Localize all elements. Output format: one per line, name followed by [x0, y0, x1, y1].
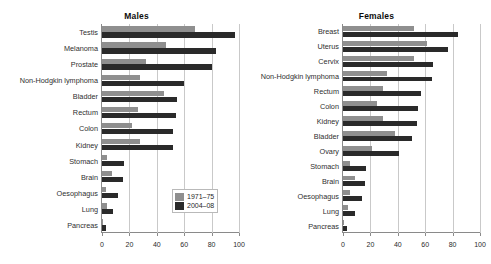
bar-row: Brain: [102, 169, 239, 185]
bar-new: [102, 81, 184, 86]
x-tick-mark: [184, 233, 185, 236]
bar-new: [343, 121, 417, 126]
bar-row: Ovary: [343, 143, 480, 158]
bar-row: Testis: [102, 24, 239, 40]
x-tick-label: 100: [233, 241, 245, 248]
category-label: Non-Hodgkin lymphoma: [261, 72, 339, 81]
bar-new: [102, 209, 113, 214]
x-tick-label: 80: [449, 241, 457, 248]
bar-old: [102, 139, 140, 144]
bar-old: [343, 41, 427, 46]
bar-row: Prostate: [102, 56, 239, 72]
bar-row: Non-Hodgkin lymphoma: [343, 69, 480, 84]
bar-row: Lung: [102, 201, 239, 217]
bar-new: [343, 226, 347, 231]
bar-old: [343, 71, 387, 76]
x-tick-label: 80: [208, 241, 216, 248]
bar-old: [102, 155, 107, 160]
bar-old: [343, 86, 383, 91]
bar-old: [102, 187, 106, 192]
category-label: Non-Hodgkin lymphoma: [20, 76, 98, 85]
bar-old: [343, 146, 372, 151]
x-tick-mark: [157, 233, 158, 236]
category-label: Melanoma: [64, 44, 98, 53]
x-tick-mark: [129, 233, 130, 236]
legend-label-new: 2004–08: [187, 202, 214, 209]
x-tick-mark: [425, 233, 426, 236]
bar-new: [343, 136, 412, 141]
bar-old: [343, 26, 414, 31]
bar-new: [102, 113, 176, 118]
bar-old: [102, 42, 166, 47]
bar-new: [343, 211, 355, 216]
bar-new: [102, 161, 124, 166]
category-label: Testis: [79, 28, 98, 37]
bar-old: [343, 131, 395, 136]
chart-panel-females: Females 020406080100 BreastUterusCervixN…: [246, 0, 491, 264]
category-label: Colon: [79, 124, 98, 133]
x-tick-label: 40: [394, 241, 402, 248]
bar-old: [102, 91, 164, 96]
figure-root: Males 020406080100 TestisMelanomaProstat…: [0, 0, 491, 264]
category-label: Ovary: [320, 146, 339, 155]
x-tick-label: 100: [474, 241, 486, 248]
category-label: Stomach: [310, 161, 339, 170]
bar-new: [343, 181, 365, 186]
category-label: Uterus: [318, 42, 340, 51]
bar-row: Rectum: [343, 84, 480, 99]
x-tick-mark: [102, 233, 103, 236]
bar-row: Pancreas: [102, 217, 239, 233]
x-tick-label: 40: [153, 241, 161, 248]
category-label: Colon: [320, 102, 339, 111]
category-label: Oesophagus: [298, 191, 339, 200]
bar-new: [343, 196, 362, 201]
bar-old: [102, 75, 140, 80]
panel-title-females: Females: [254, 11, 491, 21]
x-tick-mark: [480, 233, 481, 236]
x-tick-label: 20: [366, 241, 374, 248]
category-label: Oesophagus: [57, 188, 98, 197]
x-tick-label: 0: [341, 241, 345, 248]
legend-item-old: 1971–75: [175, 192, 214, 201]
chart-panel-males: Males 020406080100 TestisMelanomaProstat…: [0, 0, 245, 264]
bar-row: Breast: [343, 24, 480, 39]
category-label: Lung: [82, 204, 98, 213]
gridline: [480, 24, 481, 233]
bar-row: Bladder: [343, 129, 480, 144]
bar-new: [343, 32, 458, 37]
gridline: [239, 24, 240, 233]
category-label: Cervix: [318, 57, 339, 66]
category-label: Stomach: [69, 156, 98, 165]
bar-new: [343, 151, 399, 156]
bar-row: Cervix: [343, 54, 480, 69]
category-label: Kidney: [317, 117, 339, 126]
bar-new: [102, 145, 173, 150]
x-tick-label: 60: [421, 241, 429, 248]
legend-label-old: 1971–75: [187, 193, 214, 200]
x-tick-mark: [453, 233, 454, 236]
legend-swatch-new-icon: [175, 202, 184, 210]
legend-males: 1971–75 2004–08: [172, 189, 218, 213]
bar-new: [102, 193, 118, 198]
bar-row: Uterus: [343, 39, 480, 54]
legend-swatch-old-icon: [175, 193, 184, 201]
bar-row: Oesophagus: [102, 185, 239, 201]
bar-row: Stomach: [102, 153, 239, 169]
bar-row: Colon: [343, 99, 480, 114]
bar-old: [343, 220, 344, 225]
bar-new: [102, 97, 177, 102]
bar-row: Kidney: [343, 114, 480, 129]
bar-old: [343, 161, 350, 166]
x-tick-label: 0: [100, 241, 104, 248]
bar-row: Melanoma: [102, 40, 239, 56]
x-tick-label: 20: [125, 241, 133, 248]
x-tick-mark: [239, 233, 240, 236]
bar-new: [102, 48, 216, 53]
category-label: Rectum: [314, 87, 339, 96]
bar-old: [343, 56, 414, 61]
bar-old: [102, 219, 103, 224]
category-label: Bladder: [73, 92, 98, 101]
category-label: Lung: [323, 206, 339, 215]
panel-title-males: Males: [14, 11, 259, 21]
bar-old: [102, 59, 146, 64]
